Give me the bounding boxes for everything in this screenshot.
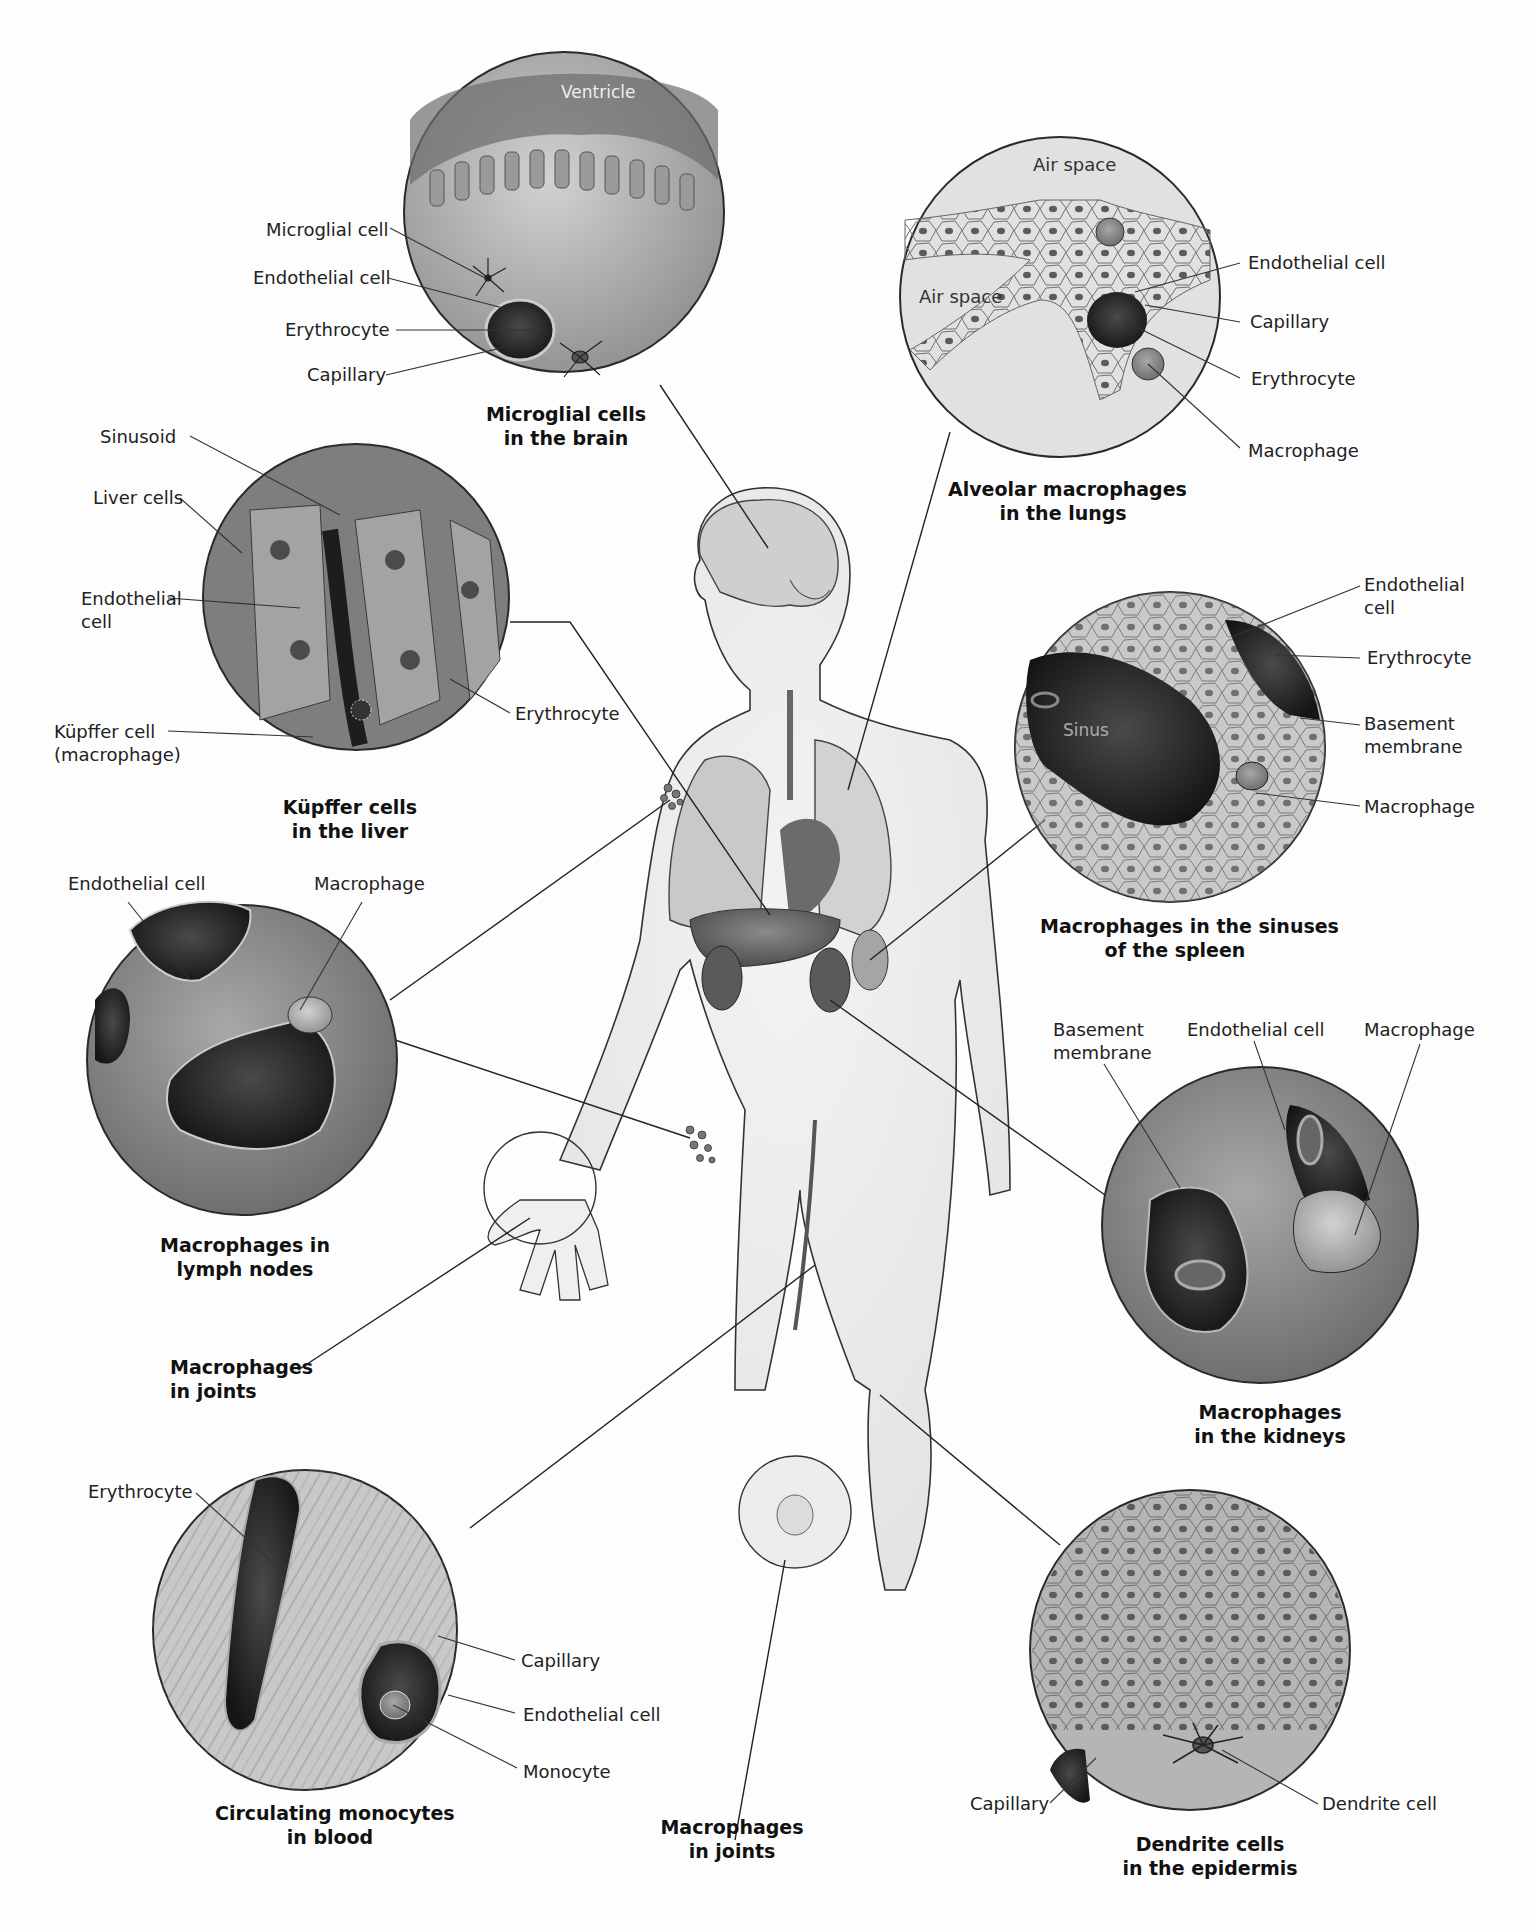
air-space-label-top: Air space [1033, 154, 1116, 175]
label-kidney-macrophage: Macrophage [1364, 1018, 1475, 1041]
right-kidney [702, 946, 742, 1010]
caption-joints-wrist: Macrophages in joints [170, 1355, 313, 1403]
label-kidney-basement-membrane: Basement membrane [1053, 1018, 1151, 1064]
lymph-macrophage [288, 997, 332, 1033]
label-spleen-macrophage: Macrophage [1364, 795, 1475, 818]
caption-brain: Microglial cells in the brain [468, 402, 664, 450]
label-lymph-macrophage: Macrophage [314, 872, 425, 895]
inset-blood [153, 1470, 457, 1790]
ventricle-label: Ventricle [561, 82, 635, 102]
sinus-label: Sinus [1063, 720, 1109, 740]
label-lung-endothelial-cell: Endothelial cell [1248, 251, 1386, 274]
label-brain-capillary: Capillary [307, 363, 386, 386]
label-sinusoid: Sinusoid [100, 425, 176, 448]
label-dendrite-cell: Dendrite cell [1322, 1792, 1437, 1815]
label-monocyte: Monocyte [523, 1760, 611, 1783]
caption-blood: Circulating monocytes in blood [215, 1801, 445, 1849]
inset-epidermis [1030, 1490, 1350, 1810]
inset-kidneys [1102, 1067, 1418, 1383]
label-microglial-cell: Microglial cell [266, 218, 389, 241]
brain-organ [699, 500, 838, 607]
inset-spleen [1015, 592, 1325, 902]
left-kidney [810, 948, 850, 1012]
label-lung-erythrocyte: Erythrocyte [1251, 367, 1356, 390]
caption-joints-knee: Macrophages in joints [652, 1815, 812, 1863]
label-lymph-endothelial-cell: Endothelial cell [68, 872, 206, 895]
caption-lymph-nodes: Macrophages in lymph nodes [160, 1233, 330, 1281]
kupffer-cell [351, 700, 371, 720]
human-body-illustration [484, 488, 1010, 1590]
inguinal-lymph-nodes [686, 1126, 715, 1163]
body-outline [560, 488, 1010, 1590]
spleen-macrophage [1236, 762, 1268, 790]
label-lung-macrophage: Macrophage [1248, 439, 1359, 462]
diagram-canvas [0, 0, 1534, 1930]
air-space-label-left: Air space [919, 286, 1002, 307]
monocyte [380, 1691, 410, 1719]
caption-liver: Küpffer cells in the liver [270, 795, 430, 843]
inset-lymph-nodes [87, 902, 397, 1215]
label-kidney-endothelial-cell: Endothelial cell [1187, 1018, 1325, 1041]
caption-kidneys: Macrophages in the kidneys [1190, 1400, 1350, 1448]
caption-epidermis: Dendrite cells in the epidermis [1110, 1832, 1310, 1880]
hand [488, 1200, 608, 1300]
label-blood-capillary: Capillary [521, 1649, 600, 1672]
label-blood-erythrocyte: Erythrocyte [88, 1480, 193, 1503]
label-liver-endothelial-cell: Endothelial cell [81, 587, 182, 633]
label-brain-erythrocyte: Erythrocyte [285, 318, 390, 341]
label-liver-cells: Liver cells [93, 486, 183, 509]
label-spleen-endothelial-cell: Endothelial cell [1364, 573, 1465, 619]
label-kupffer-cell: Küpffer cell (macrophage) [54, 720, 181, 766]
inset-liver [203, 444, 509, 750]
caption-spleen: Macrophages in the sinuses of the spleen [1040, 914, 1310, 962]
label-spleen-basement-membrane: Basement membrane [1364, 712, 1462, 758]
label-liver-erythrocyte: Erythrocyte [515, 702, 620, 725]
caption-lungs: Alveolar macrophages in the lungs [948, 477, 1178, 525]
label-lung-capillary: Capillary [1250, 310, 1329, 333]
epidermis-capillary [1050, 1749, 1090, 1803]
label-brain-endothelial-cell: Endothelial cell [253, 266, 391, 289]
lung-capillary [1087, 292, 1147, 348]
label-epidermis-capillary: Capillary [970, 1792, 1049, 1815]
label-blood-endothelial-cell: Endothelial cell [523, 1703, 661, 1726]
label-spleen-erythrocyte: Erythrocyte [1367, 646, 1472, 669]
